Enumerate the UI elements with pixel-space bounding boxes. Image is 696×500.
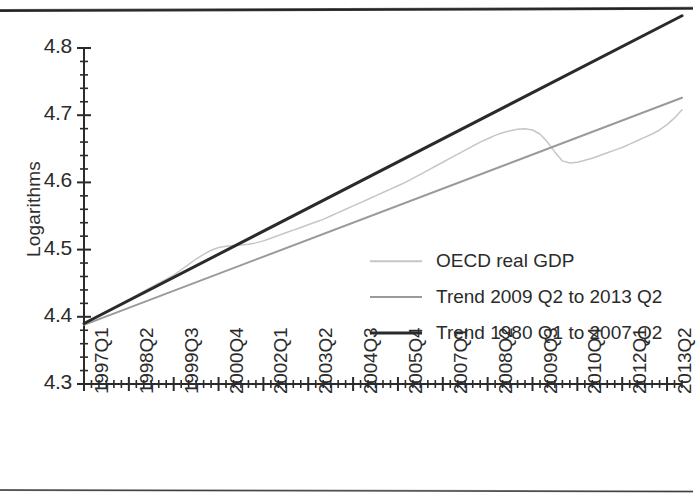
legend-label: Trend 2009 Q2 to 2013 Q2 bbox=[436, 286, 662, 308]
legend-label: Trend 1980 Q1 to 2007 Q2 bbox=[436, 322, 662, 344]
legend-line-swatch-icon bbox=[370, 327, 422, 339]
chart-legend: OECD real GDP Trend 2009 Q2 to 2013 Q2 T… bbox=[370, 243, 662, 351]
legend-line-swatch-icon bbox=[370, 255, 422, 267]
legend-item-trend-2009-2013[interactable]: Trend 2009 Q2 to 2013 Q2 bbox=[370, 279, 662, 315]
legend-item-trend-1980-2007[interactable]: Trend 1980 Q1 to 2007 Q2 bbox=[370, 315, 662, 351]
legend-line-swatch-icon bbox=[370, 291, 422, 303]
legend-item-oecd-real-gdp[interactable]: OECD real GDP bbox=[370, 243, 662, 279]
legend-label: OECD real GDP bbox=[436, 250, 574, 272]
